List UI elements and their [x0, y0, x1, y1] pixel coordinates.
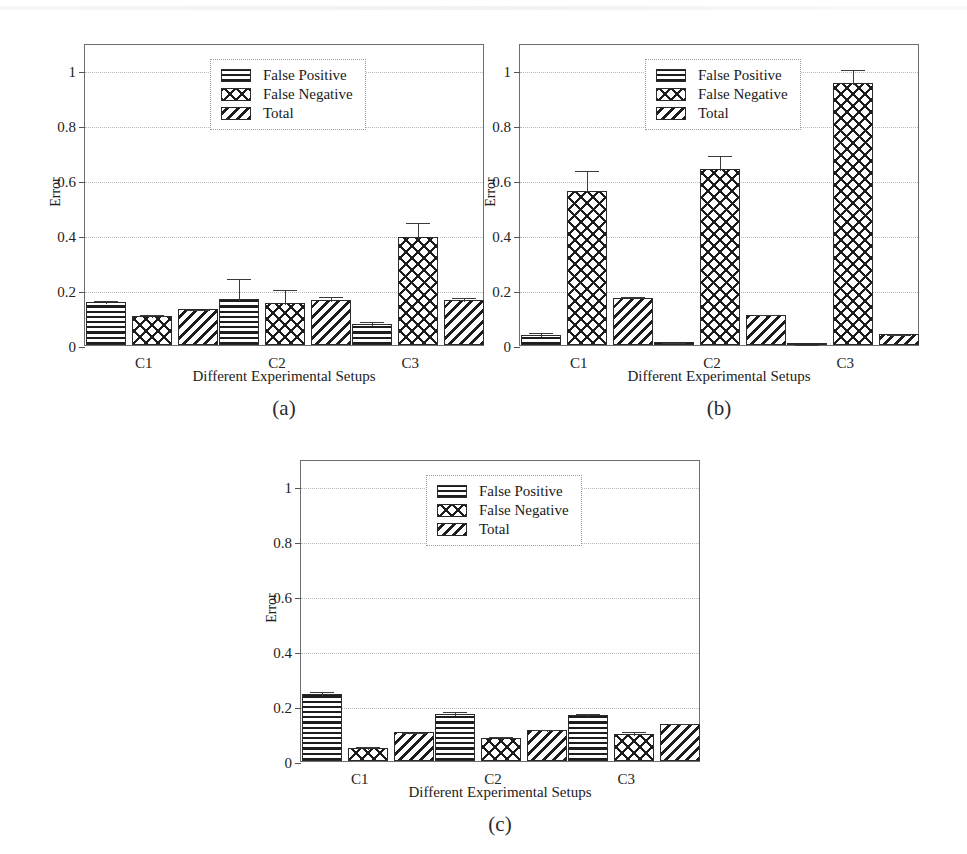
- y-tick-label-1: 1: [69, 64, 77, 81]
- subplot-panel-b: 00.20.40.60.81C1C2C3 False PositiveFalse…: [519, 44, 919, 404]
- bar-C2-false-negative: [265, 303, 305, 345]
- error-bar-cap: [273, 290, 297, 291]
- bar-C2-false-negative: [700, 169, 740, 345]
- error-bar-cap: [443, 712, 467, 713]
- bar-C3-false-negative: [833, 83, 873, 345]
- y-tick-label-0.4: 0.4: [492, 229, 511, 246]
- legend-item-total[interactable]: Total: [437, 520, 569, 539]
- legend-label: False Positive: [698, 67, 782, 84]
- y-tick-mark: [295, 708, 301, 709]
- chart-legend[interactable]: False PositiveFalse NegativeTotal: [210, 59, 366, 130]
- error-bar-cap: [535, 730, 559, 731]
- bar-C1-false-negative: [567, 191, 607, 345]
- error-bar-whisker: [285, 290, 286, 305]
- error-bar-cap: [841, 70, 865, 71]
- y-tick-mark: [79, 237, 85, 238]
- subplot-caption-b: (b): [519, 396, 919, 421]
- error-bar-cap: [576, 714, 600, 715]
- plot-box-b: 00.20.40.60.81C1C2C3 False PositiveFalse…: [519, 44, 919, 346]
- error-bar-cap: [621, 297, 645, 298]
- y-tick-label-0.2: 0.2: [492, 284, 511, 301]
- gridline-y-0.4: [301, 653, 699, 654]
- error-bar-cap: [668, 724, 692, 725]
- error-bar-cap: [662, 343, 686, 344]
- error-bar-cap: [406, 223, 430, 224]
- y-tick-mark: [295, 598, 301, 599]
- error-bar-whisker: [720, 156, 721, 171]
- y-tick-label-0.8: 0.8: [273, 535, 292, 552]
- error-bar-cap: [140, 315, 164, 316]
- legend-item-false-positive[interactable]: False Positive: [656, 66, 788, 85]
- chart-legend[interactable]: False PositiveFalse NegativeTotal: [426, 475, 582, 546]
- subplot-caption-a: (a): [84, 396, 484, 421]
- legend-item-false-negative[interactable]: False Negative: [656, 85, 788, 104]
- bar-C1-total: [178, 309, 218, 345]
- error-bar-cap: [402, 733, 426, 734]
- bar-C3-false-negative: [614, 734, 654, 761]
- error-bar-cap: [708, 156, 732, 157]
- bar-C1-total: [613, 298, 653, 345]
- y-tick-mark: [295, 488, 301, 489]
- y-tick-mark: [514, 72, 520, 73]
- x-axis-title-a: Different Experimental Setups: [84, 368, 484, 385]
- legend-swatch-horizontal-lines-icon: [221, 69, 251, 82]
- y-tick-mark: [295, 653, 301, 654]
- y-tick-label-0: 0: [69, 339, 77, 356]
- bar-C2-total: [527, 730, 567, 761]
- legend-swatch-diagonal-lines-icon: [437, 523, 467, 536]
- y-tick-mark: [295, 763, 301, 764]
- legend-item-false-positive[interactable]: False Positive: [221, 66, 353, 85]
- y-tick-label-0.4: 0.4: [57, 229, 76, 246]
- subplot-caption-c: (c): [300, 812, 700, 837]
- x-axis-title-c: Different Experimental Setups: [300, 784, 700, 801]
- legend-swatch-diagonal-lines-icon: [221, 107, 251, 120]
- bar-C1-false-negative: [132, 316, 172, 345]
- scan-artifact-line: [0, 6, 967, 10]
- error-bar-cap: [310, 692, 334, 693]
- y-tick-mark: [514, 237, 520, 238]
- bar-C3-false-positive: [568, 715, 608, 761]
- error-bar-whisker: [418, 223, 419, 238]
- legend-item-total[interactable]: Total: [221, 104, 353, 123]
- error-bar-cap: [227, 279, 251, 280]
- bar-C3-false-positive: [352, 324, 392, 345]
- bar-C1-false-positive: [302, 694, 342, 761]
- y-tick-mark: [295, 543, 301, 544]
- legend-swatch-cross-hatch-icon: [437, 504, 467, 517]
- legend-item-false-negative[interactable]: False Negative: [437, 501, 569, 520]
- legend-label: Total: [263, 105, 294, 122]
- legend-swatch-diagonal-lines-icon: [656, 107, 686, 120]
- y-tick-label-0.8: 0.8: [492, 119, 511, 136]
- legend-item-total[interactable]: Total: [656, 104, 788, 123]
- error-bar-cap: [795, 345, 819, 346]
- error-bar-cap: [622, 732, 646, 733]
- error-bar-cap: [319, 297, 343, 298]
- bar-C2-total: [746, 315, 786, 345]
- y-axis-title-c: Error: [264, 578, 280, 638]
- plot-box-c: 00.20.40.60.81C1C2C3 False PositiveFalse…: [300, 460, 700, 762]
- y-axis-title-a: Error: [48, 162, 64, 222]
- chart-legend[interactable]: False PositiveFalse NegativeTotal: [645, 59, 801, 130]
- legend-item-false-positive[interactable]: False Positive: [437, 482, 569, 501]
- bar-C2-total: [311, 300, 351, 345]
- y-tick-label-0.2: 0.2: [57, 284, 76, 301]
- error-bar-cap: [356, 747, 380, 748]
- error-bar-cap: [887, 335, 911, 336]
- error-bar-cap: [94, 301, 118, 302]
- y-tick-mark: [514, 127, 520, 128]
- legend-label: False Negative: [263, 86, 353, 103]
- y-axis-title-b: Error: [483, 162, 499, 222]
- legend-label: False Negative: [479, 502, 569, 519]
- x-axis-title-b: Different Experimental Setups: [519, 368, 919, 385]
- bar-C1-false-negative: [348, 748, 388, 761]
- plot-box-a: 00.20.40.60.81C1C2C3 False PositiveFalse…: [84, 44, 484, 346]
- bar-C2-false-negative: [481, 738, 521, 761]
- bar-C3-false-negative: [398, 237, 438, 345]
- y-tick-label-1: 1: [285, 480, 293, 497]
- subplot-panel-a: 00.20.40.60.81C1C2C3 False PositiveFalse…: [84, 44, 484, 404]
- y-tick-label-0: 0: [285, 755, 293, 772]
- legend-label: False Positive: [263, 67, 347, 84]
- error-bar-cap: [360, 322, 384, 323]
- legend-item-false-negative[interactable]: False Negative: [221, 85, 353, 104]
- error-bar-whisker: [239, 279, 240, 301]
